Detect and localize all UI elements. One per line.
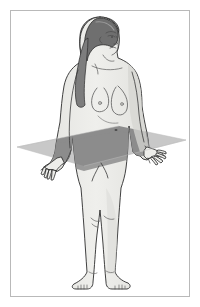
anatomy-illustration <box>0 0 200 307</box>
figure-root: Transverse (horizontal) plane of the hum… <box>0 0 200 307</box>
